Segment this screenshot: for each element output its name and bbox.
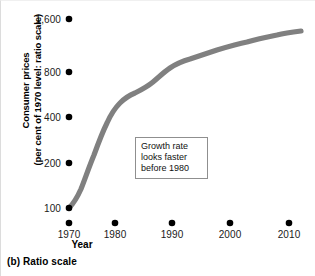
ratio-scale-chart-figure: 1,600 800 400 200 100 1970 1980 1990 200… [0, 0, 315, 276]
y-axis-title: Consumer prices (per cent of 1970 level:… [20, 16, 43, 166]
annotation-line-1: Growth rate [141, 141, 203, 152]
ytick-dot-200 [66, 160, 73, 167]
xtick-label-2010: 2010 [278, 229, 301, 240]
xtick-dot-2000 [227, 220, 234, 227]
annotation-callout: Growth rate looks faster before 1980 [135, 137, 208, 179]
x-axis-title: Year [39, 239, 125, 250]
annotation-line-3: before 1980 [141, 163, 203, 174]
xtick-dot-1990 [169, 220, 176, 227]
annotation-line-2: looks faster [141, 152, 203, 163]
xtick-dot-1970 [66, 220, 73, 227]
ytick-label-100: 100 [19, 203, 61, 214]
ytick-dot-100 [66, 205, 73, 212]
y-axis-title-line1: Consumer prices [20, 16, 32, 166]
consumer-prices-line [69, 31, 301, 208]
xtick-label-1990: 1990 [161, 229, 184, 240]
xtick-dot-2010 [286, 220, 293, 227]
ytick-dot-800 [66, 69, 73, 76]
xtick-dot-1980 [112, 220, 119, 227]
figure-caption: (b) Ratio scale [7, 256, 77, 267]
xtick-label-2000: 2000 [219, 229, 242, 240]
y-axis-title-line2: (per cent of 1970 level: ratio scale) [31, 16, 43, 166]
ytick-dot-1600 [66, 16, 73, 23]
ytick-dot-400 [66, 114, 73, 121]
